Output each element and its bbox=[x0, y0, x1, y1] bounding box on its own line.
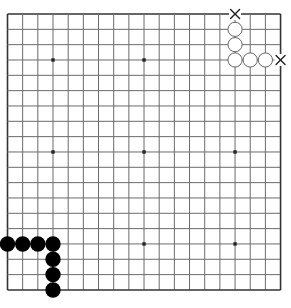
board-intersection[interactable] bbox=[0, 144, 15, 159]
board-intersection[interactable] bbox=[0, 83, 15, 98]
board-intersection[interactable] bbox=[136, 282, 151, 297]
board-intersection[interactable] bbox=[106, 144, 121, 159]
board-intersection[interactable] bbox=[212, 83, 227, 98]
board-intersection[interactable] bbox=[61, 206, 76, 221]
board-intersection[interactable] bbox=[273, 83, 288, 98]
board-intersection[interactable] bbox=[61, 52, 76, 67]
board-intersection[interactable] bbox=[167, 98, 182, 113]
board-intersection[interactable] bbox=[136, 206, 151, 221]
board-intersection[interactable] bbox=[227, 190, 242, 205]
board-intersection[interactable] bbox=[106, 129, 121, 144]
board-intersection[interactable] bbox=[0, 206, 15, 221]
board-intersection[interactable] bbox=[243, 236, 258, 251]
board-intersection[interactable] bbox=[76, 68, 91, 83]
board-intersection[interactable] bbox=[45, 160, 60, 175]
board-intersection[interactable] bbox=[91, 114, 106, 129]
board-intersection[interactable] bbox=[212, 252, 227, 267]
board-intersection[interactable] bbox=[182, 252, 197, 267]
board-intersection[interactable] bbox=[243, 129, 258, 144]
board-intersection[interactable] bbox=[15, 22, 30, 37]
board-intersection[interactable] bbox=[197, 144, 212, 159]
board-intersection[interactable] bbox=[243, 221, 258, 236]
board-intersection[interactable] bbox=[45, 22, 60, 37]
board-intersection[interactable] bbox=[136, 114, 151, 129]
board-intersection[interactable] bbox=[15, 160, 30, 175]
board-intersection[interactable] bbox=[106, 6, 121, 21]
board-intersection[interactable] bbox=[243, 252, 258, 267]
board-intersection[interactable] bbox=[106, 267, 121, 282]
board-intersection[interactable] bbox=[152, 190, 167, 205]
board-intersection[interactable] bbox=[30, 6, 45, 21]
board-intersection[interactable] bbox=[167, 22, 182, 37]
board-intersection[interactable] bbox=[212, 52, 227, 67]
board-intersection[interactable] bbox=[243, 22, 258, 37]
board-intersection[interactable] bbox=[152, 221, 167, 236]
board-intersection[interactable] bbox=[167, 160, 182, 175]
board-intersection[interactable] bbox=[121, 37, 136, 52]
board-intersection[interactable] bbox=[45, 6, 60, 21]
board-intersection[interactable] bbox=[197, 160, 212, 175]
board-intersection[interactable] bbox=[197, 190, 212, 205]
board-intersection[interactable] bbox=[273, 282, 288, 297]
go-board[interactable] bbox=[0, 0, 291, 308]
board-intersection[interactable] bbox=[0, 6, 15, 21]
board-intersection[interactable] bbox=[273, 160, 288, 175]
board-intersection[interactable] bbox=[182, 221, 197, 236]
board-intersection[interactable] bbox=[30, 98, 45, 113]
board-intersection[interactable] bbox=[273, 175, 288, 190]
board-intersection[interactable] bbox=[76, 252, 91, 267]
board-intersection[interactable] bbox=[136, 252, 151, 267]
board-intersection[interactable] bbox=[76, 190, 91, 205]
board-intersection[interactable] bbox=[15, 144, 30, 159]
board-intersection[interactable] bbox=[152, 129, 167, 144]
board-intersection[interactable] bbox=[61, 83, 76, 98]
board-intersection[interactable] bbox=[45, 206, 60, 221]
board-intersection[interactable] bbox=[227, 175, 242, 190]
board-intersection[interactable] bbox=[76, 144, 91, 159]
board-intersection[interactable] bbox=[227, 83, 242, 98]
board-intersection[interactable] bbox=[212, 22, 227, 37]
board-intersection[interactable] bbox=[227, 282, 242, 297]
board-intersection[interactable] bbox=[30, 221, 45, 236]
board-intersection[interactable] bbox=[273, 144, 288, 159]
board-intersection[interactable] bbox=[91, 52, 106, 67]
board-intersection[interactable] bbox=[152, 22, 167, 37]
board-intersection[interactable] bbox=[197, 129, 212, 144]
board-intersection[interactable] bbox=[0, 267, 15, 282]
board-intersection[interactable] bbox=[30, 282, 45, 297]
board-intersection[interactable] bbox=[30, 190, 45, 205]
board-intersection[interactable] bbox=[15, 83, 30, 98]
board-intersection[interactable] bbox=[258, 221, 273, 236]
board-intersection[interactable] bbox=[106, 236, 121, 251]
board-intersection[interactable] bbox=[106, 175, 121, 190]
board-intersection[interactable] bbox=[273, 236, 288, 251]
board-intersection[interactable] bbox=[243, 114, 258, 129]
board-intersection[interactable] bbox=[243, 83, 258, 98]
board-intersection[interactable] bbox=[0, 68, 15, 83]
board-intersection[interactable] bbox=[106, 206, 121, 221]
board-intersection[interactable] bbox=[121, 6, 136, 21]
board-intersection[interactable] bbox=[91, 144, 106, 159]
board-intersection[interactable] bbox=[197, 206, 212, 221]
board-intersection[interactable] bbox=[212, 236, 227, 251]
board-intersection[interactable] bbox=[243, 267, 258, 282]
board-intersection[interactable] bbox=[76, 37, 91, 52]
board-intersection[interactable] bbox=[273, 37, 288, 52]
board-intersection[interactable] bbox=[76, 98, 91, 113]
board-intersection[interactable] bbox=[0, 252, 15, 267]
board-intersection[interactable] bbox=[0, 129, 15, 144]
board-intersection[interactable] bbox=[227, 267, 242, 282]
board-intersection[interactable] bbox=[136, 221, 151, 236]
board-intersection[interactable] bbox=[273, 267, 288, 282]
board-intersection[interactable] bbox=[106, 68, 121, 83]
board-intersection[interactable] bbox=[61, 160, 76, 175]
board-intersection[interactable] bbox=[121, 267, 136, 282]
board-intersection[interactable] bbox=[0, 52, 15, 67]
board-intersection[interactable] bbox=[121, 221, 136, 236]
board-intersection[interactable] bbox=[61, 22, 76, 37]
board-intersection[interactable] bbox=[182, 6, 197, 21]
board-intersection[interactable] bbox=[152, 98, 167, 113]
board-intersection[interactable] bbox=[0, 282, 15, 297]
board-intersection[interactable] bbox=[182, 236, 197, 251]
board-intersection[interactable] bbox=[273, 22, 288, 37]
